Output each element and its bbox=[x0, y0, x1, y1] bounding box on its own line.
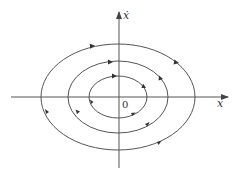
axes bbox=[11, 12, 228, 168]
y-axis-label: ẋ bbox=[123, 9, 130, 22]
arrow-icon bbox=[108, 60, 113, 65]
x-axis-label: x bbox=[217, 97, 224, 110]
phase-portrait-diagram: ẋ x 0 bbox=[0, 0, 235, 182]
arrow-icon bbox=[76, 110, 81, 115]
arrow-icon bbox=[157, 141, 162, 145]
arrow-icon bbox=[112, 74, 117, 79]
arrow-icon bbox=[45, 109, 49, 114]
origin-label: 0 bbox=[122, 99, 128, 110]
